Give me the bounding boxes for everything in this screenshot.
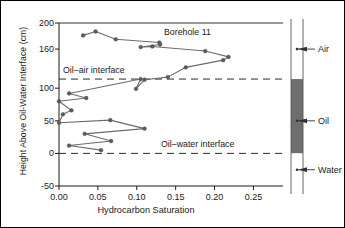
figure-panel: Height Above Oil-Water Interface (cm) 20… [0,0,345,228]
oil-air-interface-label: Oil–air interface [63,65,125,75]
stratigraphy-label-oil: Oil [318,116,329,126]
chart-title: Borehole 11 [164,27,211,37]
x-axis-title: Hydrocarbon Saturation [1,205,291,215]
stratigraphy-label-water: Water [318,165,342,175]
oil-water-interface-label: Oil–water interface [161,139,234,149]
stratigraphy-label-air: Air [318,44,329,54]
